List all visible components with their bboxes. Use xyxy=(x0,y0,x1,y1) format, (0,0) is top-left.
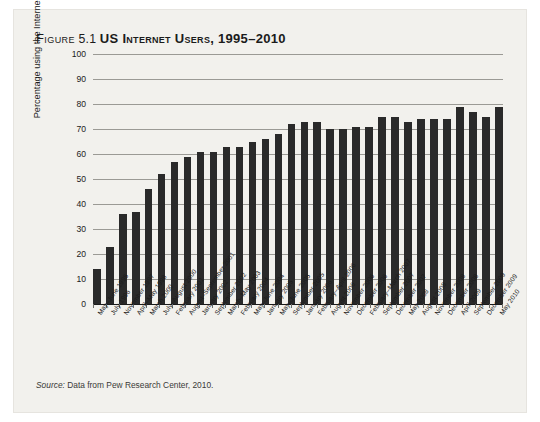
page-title: Figure 5.1 US Internet Users, 1995–2010 xyxy=(36,31,286,46)
bar xyxy=(171,162,179,305)
source-note: Source: Data from Pew Research Center, 2… xyxy=(36,380,213,390)
y-tick-40: 40 xyxy=(52,199,86,209)
y-axis-title: Percentage using the Internet xyxy=(32,0,42,128)
source-label: Source: xyxy=(36,380,65,390)
y-tick-80: 80 xyxy=(52,99,86,109)
y-axis-tick-labels: 0102030405060708090100 xyxy=(54,54,90,304)
chart-plot-area: Percentage using the Internet 0102030405… xyxy=(36,54,506,322)
bar xyxy=(93,269,101,304)
y-tick-50: 50 xyxy=(52,174,86,184)
x-tick-mark xyxy=(93,304,94,308)
y-tick-10: 10 xyxy=(52,274,86,284)
y-tick-0: 0 xyxy=(52,299,86,309)
bar xyxy=(288,124,296,304)
y-tick-70: 70 xyxy=(52,124,86,134)
bar-series xyxy=(93,54,503,304)
figure-number: 5.1 xyxy=(78,32,96,46)
bar xyxy=(482,117,490,305)
figure-title-text: US Internet Users, 1995–2010 xyxy=(100,31,286,46)
bar xyxy=(443,119,451,304)
y-tick-20: 20 xyxy=(52,249,86,259)
y-tick-30: 30 xyxy=(52,224,86,234)
source-text: Data from Pew Research Center, 2010. xyxy=(65,380,214,390)
figure-card: Figure 5.1 US Internet Users, 1995–2010 … xyxy=(13,9,527,413)
y-tick-100: 100 xyxy=(52,49,86,59)
y-tick-90: 90 xyxy=(52,74,86,84)
bar xyxy=(430,119,438,304)
bar xyxy=(352,127,360,305)
y-tick-60: 60 xyxy=(52,149,86,159)
